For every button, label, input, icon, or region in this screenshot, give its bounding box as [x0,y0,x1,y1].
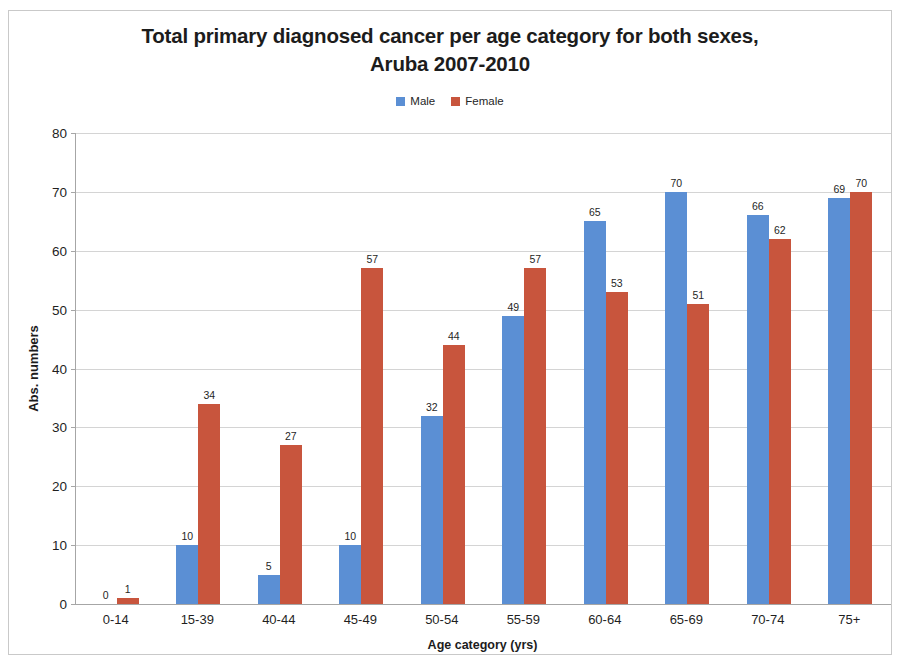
y-axis-tick-label: 20 [52,479,67,494]
x-axis-tick-label: 40-44 [238,612,320,627]
bar-group: 3244 [402,133,484,604]
y-axis-tick-label: 80 [52,126,67,141]
x-axis-tick-label: 45-49 [320,612,402,627]
bar-value-label: 32 [426,401,438,413]
y-axis-tick-label: 60 [52,243,67,258]
bar-female[interactable]: 53 [606,292,628,604]
bar-value-label: 0 [103,589,109,601]
bar-group: 6553 [565,133,647,604]
legend-label: Female [465,95,503,107]
bar-value-label: 70 [670,177,682,189]
bar-value-label: 51 [692,289,704,301]
y-axis-tick-label: 50 [52,302,67,317]
y-axis-tick-label: 70 [52,184,67,199]
x-axis-tick-labels: 0-1415-3940-4445-4950-5455-5960-6465-697… [75,612,890,627]
x-axis-tick-label: 60-64 [564,612,646,627]
bar-male[interactable]: 65 [584,221,606,604]
legend-item-male[interactable]: Male [396,95,435,107]
bar-group: 7051 [647,133,729,604]
bar-male[interactable]: 66 [747,215,769,604]
bar-female[interactable]: 70 [850,192,872,604]
bar-female[interactable]: 34 [198,404,220,604]
bar-value-label: 66 [752,200,764,212]
bar-group: 527 [239,133,321,604]
y-axis-title: Abs. numbers [24,133,42,604]
x-axis-tick-label: 70-74 [727,612,809,627]
chart-legend: MaleFemale [0,95,900,107]
bar-male[interactable]: 69 [828,198,850,604]
x-axis-tick-label: 65-69 [646,612,728,627]
bar-value-label: 27 [285,430,297,442]
x-axis-tick-label: 75+ [809,612,891,627]
x-axis-tick-label: 0-14 [75,612,157,627]
bar-value-label: 65 [589,206,601,218]
y-axis-tick-label: 30 [52,420,67,435]
bar-value-label: 57 [366,253,378,265]
legend-label: Male [410,95,435,107]
y-axis-tick-label: 40 [52,361,67,376]
bar-value-label: 57 [529,253,541,265]
plot-area: 01020304050607080 0110345271057324449576… [75,133,891,605]
y-axis-tick-label: 10 [52,538,67,553]
bar-value-label: 5 [266,560,272,572]
bar-female[interactable]: 51 [687,304,709,604]
bar-female[interactable]: 57 [524,268,546,604]
bar-female[interactable]: 27 [280,445,302,604]
bar-male[interactable]: 49 [502,316,524,604]
bar-male[interactable]: 5 [258,575,280,604]
x-axis-tick-label: 50-54 [401,612,483,627]
x-axis-title: Age category (yrs) [75,638,890,652]
bar-male[interactable]: 32 [421,416,443,604]
bar-value-label: 62 [774,224,786,236]
x-axis-tick-label: 55-59 [483,612,565,627]
bar-value-label: 69 [833,183,845,195]
bar-male[interactable]: 70 [665,192,687,604]
bar-female[interactable]: 62 [769,239,791,604]
bar-groups: 0110345271057324449576553705166626970 [76,133,891,604]
bar-value-label: 49 [507,301,519,313]
legend-swatch-icon [396,97,405,106]
bar-male[interactable]: 10 [176,545,198,604]
bar-male[interactable]: 10 [339,545,361,604]
legend-item-female[interactable]: Female [451,95,503,107]
legend-swatch-icon [451,97,460,106]
x-axis-tick-label: 15-39 [157,612,239,627]
y-axis-tick-label: 0 [59,597,67,612]
y-axis-tick-mark [71,604,76,605]
bar-female[interactable]: 1 [117,598,139,604]
chart-title-line-2: Aruba 2007-2010 [70,50,830,78]
bar-female[interactable]: 57 [361,268,383,604]
bar-female[interactable]: 44 [443,345,465,604]
bar-group: 6662 [728,133,810,604]
chart-title: Total primary diagnosed cancer per age c… [70,22,830,79]
bar-value-label: 10 [344,530,356,542]
y-axis-title-label: Abs. numbers [26,325,41,412]
bar-value-label: 44 [448,330,460,342]
bar-group: 6970 [810,133,892,604]
bar-value-label: 70 [855,177,867,189]
bar-value-label: 10 [181,530,193,542]
chart-title-line-1: Total primary diagnosed cancer per age c… [141,24,758,47]
bar-group: 01 [76,133,158,604]
bar-group: 4957 [484,133,566,604]
bar-value-label: 34 [203,389,215,401]
bar-value-label: 1 [125,583,131,595]
bar-group: 1057 [321,133,403,604]
bar-group: 1034 [158,133,240,604]
chart-container: Total primary diagnosed cancer per age c… [0,0,900,663]
bar-value-label: 53 [611,277,623,289]
